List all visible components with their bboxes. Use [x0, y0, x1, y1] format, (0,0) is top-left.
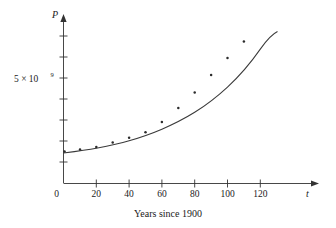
y-axis-arrowhead [60, 14, 66, 22]
x-axis-arrowhead [311, 180, 319, 186]
x-axis-label: t [306, 188, 309, 199]
x-tick-label-100: 100 [220, 189, 235, 199]
data-point [193, 91, 196, 94]
data-point [210, 74, 213, 77]
population-scatter-figure: P 5 × 10 9 0 20 40 60 80 100 120 t [0, 0, 336, 228]
figure-caption: Years since 1900 [134, 208, 202, 219]
data-point-group [63, 40, 245, 153]
x-axis-group: 0 20 40 60 80 100 120 t [54, 180, 319, 200]
data-point [128, 136, 131, 139]
data-point [161, 121, 164, 124]
x-tick-label-60: 60 [157, 189, 167, 199]
y-tick-label-5e9-exponent: 9 [51, 71, 54, 78]
x-tick-label-20: 20 [92, 189, 102, 199]
data-point [243, 40, 246, 43]
data-point [177, 107, 180, 110]
x-tick-label-80: 80 [190, 189, 200, 199]
fit-curve-group [64, 32, 278, 154]
y-tick-label-5e9: 5 × 10 [14, 74, 39, 84]
exponential-fit-curve [64, 32, 278, 154]
y-axis-group: P 5 × 10 9 [14, 9, 68, 183]
x-tick-label-40: 40 [124, 189, 134, 199]
y-axis-label: P [51, 9, 58, 20]
x-tick-label-0: 0 [54, 189, 59, 199]
x-tick-label-120: 120 [253, 189, 268, 199]
data-point [95, 146, 98, 149]
data-point [226, 57, 229, 60]
data-point [144, 131, 147, 134]
data-point [79, 148, 82, 151]
data-point [63, 150, 66, 153]
data-point [111, 141, 114, 144]
plot-canvas: P 5 × 10 9 0 20 40 60 80 100 120 t [0, 0, 336, 228]
